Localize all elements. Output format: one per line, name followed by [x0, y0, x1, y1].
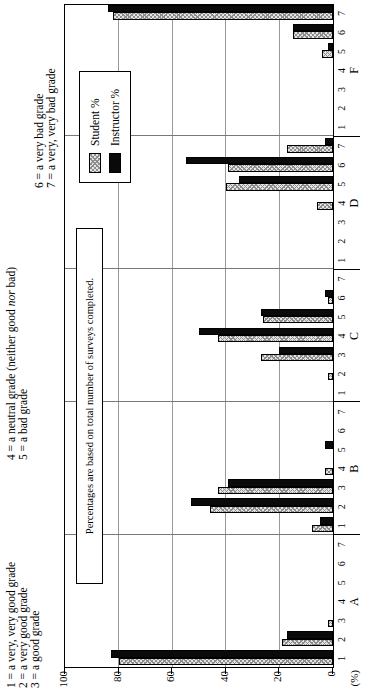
bar-D6-instructor: [186, 157, 333, 164]
bar-F5-student: [322, 50, 333, 57]
bar-A3-student: [328, 620, 333, 627]
bar-F6-student: [293, 31, 333, 38]
y-tick-label-60: 60: [164, 671, 177, 696]
bar-F6-instructor: [293, 24, 333, 31]
position-label-B3: 3: [336, 478, 347, 497]
position-label-D5: 5: [336, 175, 347, 194]
bar-B2-student: [210, 506, 333, 513]
bar-C3-student: [261, 354, 333, 361]
y-tick-label-100: 100: [57, 671, 70, 696]
bar-C4-instructor: [199, 328, 333, 335]
position-label-A4: 4: [336, 592, 347, 611]
position-label-D1: 1: [336, 251, 347, 270]
y-tick-mark-20: [278, 668, 279, 674]
scale-item-5: 5 = a bad grade: [17, 267, 29, 460]
legend-box: Student % Instructor %: [79, 71, 131, 183]
scale-item-3: 3 = a good grade: [29, 562, 41, 688]
legend-label-student: Student %: [89, 98, 101, 146]
position-label-B6: 6: [336, 421, 347, 440]
student-swatch-icon: [89, 153, 101, 173]
bar-D6-student: [228, 164, 333, 171]
bar-B5-instructor: [325, 441, 333, 448]
position-label-D2: 2: [336, 232, 347, 251]
y-tick-mark-100: [64, 668, 65, 674]
bar-A2-instructor: [287, 631, 333, 638]
rotated-chart-stage: 1 = a very, very good grade 2 = a very g…: [0, 0, 367, 696]
bar-C6-student: [328, 297, 333, 304]
bar-D5-student: [226, 183, 333, 190]
position-label-D4: 4: [336, 194, 347, 213]
bar-A1-student: [119, 658, 333, 665]
category-label-A: A: [348, 535, 361, 668]
position-label-F6: 6: [336, 23, 347, 42]
note-box: Percentages are based on total number of…: [76, 228, 103, 584]
position-label-C7: 7: [336, 270, 347, 289]
bar-B1-instructor: [320, 517, 333, 524]
y-tick-mark-80: [118, 668, 119, 674]
position-label-C2: 2: [336, 364, 347, 383]
category-separator-C: [65, 401, 333, 402]
y-tick-label-80: 80: [111, 671, 124, 696]
position-label-A3: 3: [336, 611, 347, 630]
scale-item-7: 7 = a very, very bad grade: [45, 68, 57, 188]
bar-D7-student: [287, 145, 333, 152]
scale-item-1: 1 = a very, very good grade: [5, 562, 17, 688]
position-label-C1: 1: [336, 383, 347, 402]
y-axis-unit-label: (%): [348, 670, 360, 696]
position-label-B1: 1: [336, 516, 347, 535]
scale-item-4: 4 = a neutral grade (neither good nor ba…: [5, 267, 17, 460]
position-label-B5: 5: [336, 440, 347, 459]
category-label-F: F: [348, 4, 361, 137]
bar-F7-instructor: [108, 5, 333, 12]
bar-D5-instructor: [239, 176, 333, 183]
position-label-C5: 5: [336, 308, 347, 327]
legend-label-instructor: Instructor %: [109, 89, 121, 146]
y-tick-label-40: 40: [218, 671, 231, 696]
position-label-B7: 7: [336, 402, 347, 421]
legend-row-instructor: Instructor %: [105, 72, 125, 173]
position-label-F5: 5: [336, 42, 347, 61]
bar-F5-instructor: [328, 43, 333, 50]
grade-scale-legend-col2: 4 = a neutral grade (neither good nor ba…: [5, 267, 29, 460]
position-label-A2: 2: [336, 630, 347, 649]
position-label-A6: 6: [336, 554, 347, 573]
scanned-figure-page: 1 = a very, very good grade 2 = a very g…: [0, 0, 367, 696]
position-label-F2: 2: [336, 99, 347, 118]
position-label-C6: 6: [336, 289, 347, 308]
y-tick-mark-40: [225, 668, 226, 674]
category-label-C: C: [348, 270, 361, 403]
bar-C5-instructor: [261, 309, 333, 316]
scale-item-2: 2 = a very good grade: [17, 562, 29, 688]
bar-D4-student: [317, 202, 333, 209]
position-label-C3: 3: [336, 346, 347, 365]
position-label-F3: 3: [336, 80, 347, 99]
bar-C2-student: [328, 373, 333, 380]
scale-item-6: 6 = a very bad grade: [33, 68, 45, 188]
category-label-B: B: [348, 402, 361, 535]
position-label-F7: 7: [336, 4, 347, 23]
grade-scale-legend-col3: 6 = a very bad grade 7 = a very, very ba…: [33, 68, 57, 188]
grade-scale-legend-col1: 1 = a very, very good grade 2 = a very g…: [5, 562, 41, 688]
gridline-60: [172, 5, 173, 667]
category-separator-D: [65, 268, 333, 269]
bar-F7-student: [113, 13, 333, 20]
bar-C4-student: [218, 335, 333, 342]
bar-B2-instructor: [191, 498, 333, 505]
bar-C3-instructor: [279, 347, 333, 354]
position-label-D7: 7: [336, 137, 347, 156]
position-label-F1: 1: [336, 118, 347, 137]
bar-B4-student: [325, 468, 333, 475]
position-label-B2: 2: [336, 497, 347, 516]
y-tick-label-20: 20: [271, 671, 284, 696]
position-label-D3: 3: [336, 213, 347, 232]
bar-B1-student: [312, 525, 333, 532]
bar-A2-student: [282, 639, 333, 646]
position-label-B4: 4: [336, 459, 347, 478]
y-tick-label-0: 0: [325, 671, 338, 696]
position-label-A5: 5: [336, 573, 347, 592]
position-label-A1: 1: [336, 649, 347, 668]
y-tick-mark-60: [171, 668, 172, 674]
y-tick-mark-0: [332, 668, 333, 674]
position-label-A7: 7: [336, 535, 347, 554]
bar-C5-student: [263, 316, 333, 323]
